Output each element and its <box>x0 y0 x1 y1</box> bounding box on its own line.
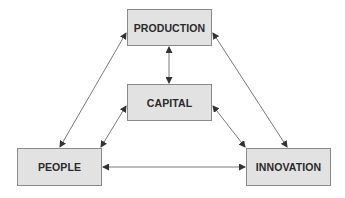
node-innovation: INNOVATION <box>246 148 331 186</box>
edge-production-innovation <box>213 33 287 147</box>
edge-production-people <box>60 33 126 147</box>
node-production: PRODUCTION <box>127 9 212 46</box>
node-capital-label: CAPITAL <box>147 97 192 109</box>
node-people: PEOPLE <box>17 148 102 186</box>
node-innovation-label: INNOVATION <box>256 161 321 173</box>
node-capital: CAPITAL <box>127 84 212 121</box>
node-production-label: PRODUCTION <box>134 22 206 34</box>
node-people-label: PEOPLE <box>38 161 81 173</box>
edge-capital-people <box>101 106 126 147</box>
edge-capital-innovation <box>213 106 245 147</box>
